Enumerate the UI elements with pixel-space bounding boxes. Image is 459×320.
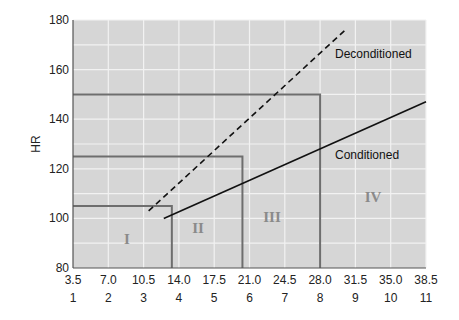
- region-label-i: I: [124, 231, 130, 247]
- x-tick-label-primary: 14.0: [167, 273, 191, 287]
- x-tick-label-secondary: 11: [420, 291, 433, 305]
- x-tick-label-secondary: 2: [105, 291, 112, 305]
- x-tick-label-secondary: 5: [211, 291, 218, 305]
- x-tick-label-secondary: 6: [246, 291, 253, 305]
- y-tick-label: 160: [49, 63, 69, 77]
- x-tick-label-primary: 28.0: [308, 273, 332, 287]
- x-tick-label-secondary: 4: [176, 291, 183, 305]
- x-tick-label-primary: 3.5: [65, 273, 82, 287]
- deconditioned-label: Deconditioned: [335, 47, 412, 61]
- x-tick-label-secondary: 3: [140, 291, 147, 305]
- x-tick-label-primary: 24.5: [273, 273, 297, 287]
- region-label-iv: IV: [365, 189, 382, 205]
- conditioned-label: Conditioned: [335, 148, 399, 162]
- x-tick-label-primary: 31.5: [344, 273, 368, 287]
- y-tick-labels: 80100120140160180: [49, 13, 69, 275]
- x-tick-label-secondary: 7: [281, 291, 288, 305]
- x-tick-label-secondary: 8: [317, 291, 324, 305]
- y-axis-label: HR: [29, 135, 43, 153]
- x-tick-label-primary: 17.5: [203, 273, 227, 287]
- x-tick-label-primary: 7.0: [100, 273, 117, 287]
- x-tick-label-secondary: 1: [70, 291, 77, 305]
- region-label-ii: II: [192, 220, 204, 236]
- x-tick-labels: 3.517.0210.5314.0417.5521.0624.5728.0831…: [65, 273, 438, 305]
- y-tick-label: 120: [49, 162, 69, 176]
- x-tick-label-primary: 38.5: [414, 273, 438, 287]
- x-tick-label-secondary: 9: [352, 291, 359, 305]
- y-tick-label: 100: [49, 211, 69, 225]
- y-tick-label: 180: [49, 13, 69, 27]
- x-tick-label-primary: 35.0: [379, 273, 403, 287]
- x-tick-label-primary: 21.0: [238, 273, 262, 287]
- x-tick-label-secondary: 10: [384, 291, 398, 305]
- y-tick-label: 140: [49, 112, 69, 126]
- x-tick-label-primary: 10.5: [132, 273, 156, 287]
- region-label-iii: III: [263, 209, 281, 225]
- chart: 80100120140160180 3.517.0210.5314.0417.5…: [0, 0, 459, 320]
